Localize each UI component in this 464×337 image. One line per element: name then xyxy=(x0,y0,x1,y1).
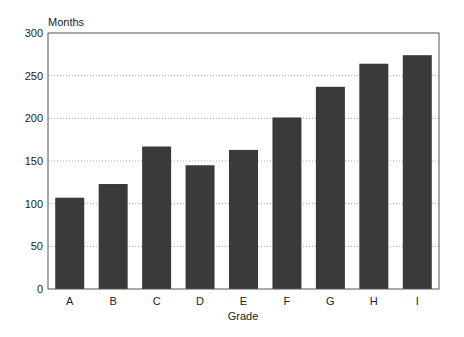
y-axis-label: Months xyxy=(48,16,85,28)
bar xyxy=(316,87,345,289)
x-tick-label: C xyxy=(153,295,161,307)
x-axis-ticks: ABCDEFGHI xyxy=(66,295,419,307)
y-tick-label: 50 xyxy=(31,240,43,252)
x-tick-label: G xyxy=(326,295,335,307)
x-tick-label: B xyxy=(109,295,116,307)
y-axis-ticks: 050100150200250300 xyxy=(25,27,43,295)
y-tick-label: 200 xyxy=(25,112,43,124)
x-tick-label: F xyxy=(284,295,291,307)
bar xyxy=(229,150,258,289)
y-tick-label: 300 xyxy=(25,27,43,39)
bar xyxy=(403,55,432,289)
bar-chart: 050100150200250300 ABCDEFGHI Months Grad… xyxy=(0,0,464,337)
x-tick-label: D xyxy=(196,295,204,307)
bar xyxy=(99,184,128,289)
y-tick-label: 0 xyxy=(37,283,43,295)
x-axis-label: Grade xyxy=(228,310,259,322)
y-tick-label: 150 xyxy=(25,155,43,167)
bar xyxy=(359,64,388,289)
y-tick-label: 250 xyxy=(25,70,43,82)
bar xyxy=(272,117,301,289)
x-tick-label: E xyxy=(240,295,247,307)
bar xyxy=(186,165,215,289)
bar xyxy=(142,146,171,289)
y-tick-label: 100 xyxy=(25,198,43,210)
bars xyxy=(55,55,432,289)
x-tick-label: A xyxy=(66,295,74,307)
bar xyxy=(55,198,84,289)
x-tick-label: I xyxy=(416,295,419,307)
x-tick-label: H xyxy=(370,295,378,307)
